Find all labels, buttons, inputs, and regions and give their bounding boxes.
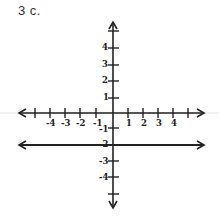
x-axis: -4 -3 -2 -1 1 2 3 4 [19, 108, 204, 128]
x-tick-label: 1 [126, 118, 132, 128]
coordinate-plane: -4 -3 -2 -1 1 2 3 4 4 3 2 1 -1 -2 -3 -4 [0, 0, 219, 218]
y-tick-label: -3 [99, 156, 109, 166]
x-tick-label: 2 [141, 118, 147, 128]
y-tick-label: -2 [99, 139, 109, 149]
y-tick-label: 2 [102, 75, 108, 85]
x-tick-label: -4 [46, 118, 56, 128]
x-tick-label: 3 [156, 118, 162, 128]
line-y-equals-neg-2 [19, 141, 204, 149]
y-axis: 4 3 2 1 -1 -2 -3 -4 [99, 22, 119, 208]
y-tick-label: -4 [99, 172, 109, 182]
y-tick-label: 4 [102, 42, 108, 52]
y-tick-label: -1 [99, 124, 109, 134]
y-tick-label: 1 [103, 92, 109, 102]
x-tick-label: -2 [76, 118, 86, 128]
x-tick-label: -3 [61, 118, 71, 128]
x-tick-label: 4 [171, 118, 177, 128]
y-tick-label: 3 [102, 59, 108, 69]
